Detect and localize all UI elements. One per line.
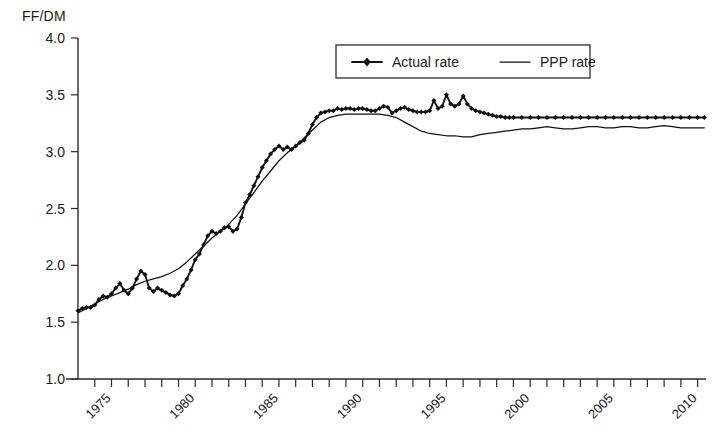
x-axis-ticks: 19751980198519901995200020052010 [83, 379, 700, 422]
data-point-marker [352, 107, 357, 112]
data-point-marker [695, 115, 700, 120]
data-point-marker [620, 115, 625, 120]
y-tick-label: 1.5 [46, 314, 66, 330]
data-point-marker [678, 115, 683, 120]
y-tick-label: 2.5 [46, 201, 66, 217]
data-point-marker [544, 115, 549, 120]
data-point-marker [536, 115, 541, 120]
legend-label-actual-rate: Actual rate [392, 54, 459, 70]
series-line-ppp-rate [78, 114, 704, 313]
data-point-marker [653, 115, 658, 120]
x-tick-label: 2010 [669, 391, 700, 422]
chart-legend: Actual rate PPP rate [336, 45, 596, 78]
data-point-marker [611, 115, 616, 120]
x-tick-label: 2005 [585, 391, 616, 422]
data-point-marker [702, 115, 707, 120]
data-point-marker [339, 107, 344, 112]
data-point-marker [519, 115, 524, 120]
data-point-marker [364, 107, 369, 112]
data-point-marker [423, 109, 428, 114]
y-tick-label: 1.0 [46, 371, 66, 387]
data-point-marker [645, 115, 650, 120]
y-tick-label: 3.0 [46, 144, 66, 160]
data-point-marker [528, 115, 533, 120]
y-tick-label: 4.0 [46, 30, 66, 46]
data-point-marker [486, 112, 491, 117]
chart-plot-area: 4.03.53.02.52.01.51.0 197519801985199019… [0, 0, 716, 442]
x-tick-label: 2000 [501, 391, 532, 422]
chart-figure: FF/DM 4.03.53.02.52.01.51.0 197519801985… [0, 0, 716, 442]
data-point-marker [348, 106, 353, 111]
data-point-marker [239, 215, 244, 220]
y-axis-ticks: 4.03.53.02.52.01.51.0 [46, 30, 78, 387]
data-point-marker [323, 109, 328, 114]
data-point-marker [662, 115, 667, 120]
x-tick-label: 1995 [417, 391, 448, 422]
data-point-marker [360, 106, 365, 111]
data-point-marker [482, 111, 487, 116]
y-tick-label: 3.5 [46, 87, 66, 103]
y-tick-label: 2.0 [46, 257, 66, 273]
data-point-marker [561, 115, 566, 120]
x-tick-label: 1980 [166, 391, 197, 422]
x-tick-label: 1990 [334, 391, 365, 422]
x-tick-label: 1985 [250, 391, 281, 422]
data-point-marker [570, 115, 575, 120]
data-point-marker [410, 108, 415, 113]
data-point-marker [603, 115, 608, 120]
legend-label-ppp-rate: PPP rate [540, 54, 596, 70]
series-markers-actual-rate [76, 92, 707, 313]
data-point-marker [490, 113, 495, 118]
data-point-marker [498, 114, 503, 119]
data-point-marker [511, 115, 516, 120]
data-point-marker [586, 115, 591, 120]
data-point-marker [687, 115, 692, 120]
data-point-marker [637, 115, 642, 120]
data-point-marker [628, 115, 633, 120]
data-point-marker [578, 115, 583, 120]
data-point-marker [427, 108, 432, 113]
x-tick-label: 1975 [83, 391, 114, 422]
data-point-marker [595, 115, 600, 120]
data-point-marker [670, 115, 675, 120]
data-point-marker [553, 115, 558, 120]
data-point-marker [477, 109, 482, 114]
